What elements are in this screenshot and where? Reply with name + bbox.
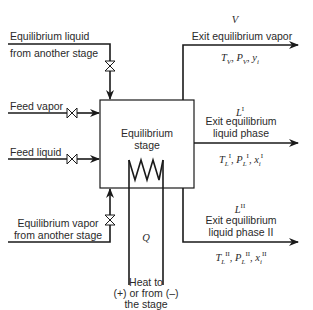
vapor-input-label-line2: from another stage — [6, 229, 110, 241]
liquid-input-label-line1: Equilibrium liquid — [10, 30, 89, 42]
vapor-props: TV, PV, yi — [200, 52, 280, 68]
liquid-I-props: TLI, PLI, xiI — [200, 150, 282, 170]
stage-label: Equilibrium stage — [100, 127, 194, 151]
liquid-II-label-line1: Exit equilibrium — [196, 214, 286, 226]
valve-icon — [67, 154, 77, 164]
heat-symbol: Q — [136, 232, 156, 244]
liquid-input-label-line2: from another stage — [10, 47, 98, 59]
stage-label-line1: Equilibrium — [100, 127, 194, 139]
liquid-I-label-line1: Exit equilibrium — [200, 115, 282, 127]
vapor-input-label-line1: Equilibrium vapor — [8, 217, 108, 229]
vapor-symbol: V — [225, 14, 245, 26]
liquid-II-symbol-sup: II — [241, 202, 246, 210]
valve-icon — [67, 108, 77, 118]
feed-liquid-label: Feed liquid — [10, 146, 61, 158]
liquid-I-symbol-sup: I — [242, 105, 244, 113]
liquid-II-label-line2: liquid phase II — [196, 226, 286, 238]
vapor-exit-label: Exit equilibrium vapor — [186, 30, 298, 42]
feed-vapor-label: Feed vapor — [10, 100, 63, 112]
valve-icon — [105, 61, 115, 71]
liquid-II-props: TLII, PLII, xiII — [196, 248, 286, 268]
heat-label-line3: the stage — [106, 298, 186, 310]
stage-label-line2: stage — [100, 139, 194, 151]
liquid-I-label-line2: liquid phase — [200, 127, 282, 139]
equilibrium-stage-diagram: Equilibrium stage Equilibrium liquid fro… — [0, 0, 313, 310]
heat-coil-icon — [129, 160, 163, 285]
